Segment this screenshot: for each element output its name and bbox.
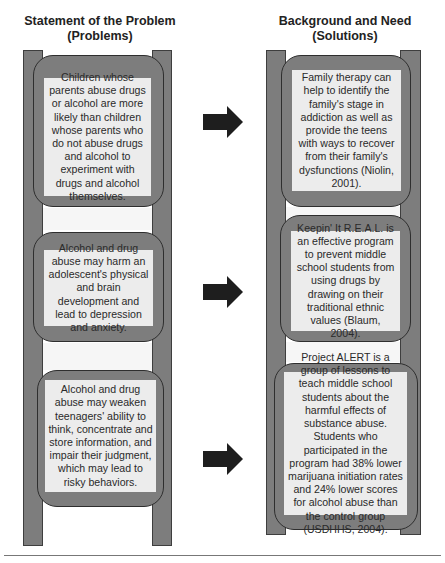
problems-heading: Statement of the Problem (Problems): [0, 14, 200, 44]
ladder-gap: [43, 508, 152, 546]
problem-card-2: Alcohol and drug abuse may harm an adole…: [33, 232, 164, 342]
solution-text-3: Project ALERT is a group of lessons to t…: [284, 372, 407, 515]
solutions-heading: Background and Need (Solutions): [245, 14, 445, 44]
solution-card-2: Keepin' It R.E.A.L. is an effective prog…: [280, 215, 411, 342]
problem-card-1: Children whose parents abuse drugs or al…: [33, 55, 164, 207]
solution-card-1: Family therapy can help to identify the …: [281, 55, 411, 207]
ladder-gap: [43, 208, 152, 230]
right-arrow-icon: [203, 443, 243, 475]
problems-heading-subtitle: (Problems): [0, 29, 200, 44]
right-arrow-icon: [203, 106, 243, 138]
ladder-gap: [43, 343, 152, 370]
solution-text-1: Family therapy can help to identify the …: [292, 70, 401, 191]
problem-card-3: Alcohol and drug abuse may weaken teenag…: [37, 370, 164, 507]
problem-text-1: Children whose parents abuse drugs or al…: [44, 78, 151, 196]
solution-card-3: Project ALERT is a group of lessons to t…: [274, 363, 418, 530]
problem-text-3: Alcohol and drug abuse may weaken teenag…: [45, 380, 156, 492]
solutions-heading-subtitle: (Solutions): [245, 29, 445, 44]
right-arrow-icon: [203, 276, 243, 308]
bottom-divider: [4, 555, 441, 556]
solution-text-2: Keepin' It R.E.A.L. is an effective prog…: [291, 231, 400, 331]
problems-heading-title: Statement of the Problem: [0, 14, 200, 29]
solutions-heading-title: Background and Need: [245, 14, 445, 29]
problem-text-2: Alcohol and drug abuse may harm an adole…: [44, 250, 153, 326]
